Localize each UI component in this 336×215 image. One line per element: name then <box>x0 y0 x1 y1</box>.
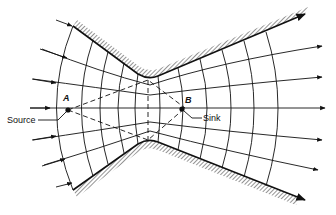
sink-point-b: B Sink <box>179 95 221 123</box>
top-wall <box>73 7 308 78</box>
source-point-a: A Source <box>7 93 71 125</box>
label-sink: Sink <box>203 113 221 123</box>
label-b: B <box>185 95 192 105</box>
flow-net-diagram: A Source B Sink <box>0 0 336 215</box>
streamlines <box>30 20 325 187</box>
dashed-paths <box>68 80 185 140</box>
label-source: Source <box>7 115 36 125</box>
label-a: A <box>62 93 70 103</box>
